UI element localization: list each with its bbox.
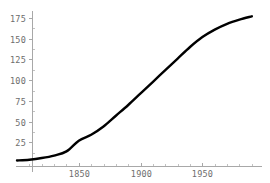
x-tick-label: 1900 [131,169,152,179]
y-axis-tick-labels: 255075100125150175 [10,14,26,148]
chart-series-group [17,16,252,160]
x-tick-label: 1950 [192,169,213,179]
chart-container: 185019001950 255075100125150175 [0,0,270,183]
y-tick-label: 125 [10,55,26,65]
y-axis-ticks [29,19,33,143]
data-curve-logistic-growth [17,16,252,160]
x-axis-ticks [80,163,203,167]
y-tick-label: 175 [10,14,26,24]
y-tick-label: 75 [15,97,26,107]
y-tick-label: 100 [10,76,26,86]
x-tick-label: 1850 [69,169,90,179]
y-tick-label: 25 [15,138,26,148]
y-tick-label: 50 [15,118,26,128]
x-axis-tick-labels: 185019001950 [69,169,213,179]
y-tick-label: 150 [10,35,26,45]
logistic-growth-chart: 185019001950 255075100125150175 [0,0,270,183]
